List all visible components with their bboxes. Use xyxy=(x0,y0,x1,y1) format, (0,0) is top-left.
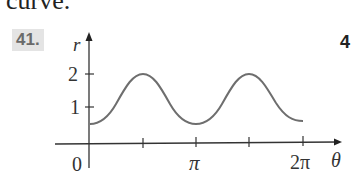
x-tick-label-2pi: 2π xyxy=(290,151,310,173)
x-tick-label-pi: π xyxy=(189,151,200,175)
y-tick-label-1: 1 xyxy=(70,96,80,118)
y-axis-label: r xyxy=(73,34,81,55)
x-axis-label: θ xyxy=(331,149,341,171)
x-axis-arrow-icon xyxy=(334,139,342,146)
x-tick-label-0: 0 xyxy=(72,153,82,175)
polar-graph: r 2 1 0 π 2π θ xyxy=(0,0,354,182)
y-tick-label-2: 2 xyxy=(68,63,78,85)
y-axis-arrow-icon xyxy=(86,32,93,41)
curve xyxy=(90,74,303,124)
